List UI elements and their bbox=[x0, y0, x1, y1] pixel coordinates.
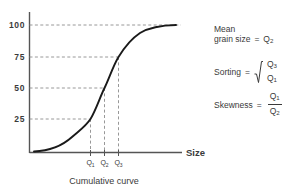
formula-sorting: Sorting = Q3 Q1 bbox=[214, 60, 281, 84]
formula-mean-equals: = bbox=[254, 34, 259, 44]
y-tick-label-75: 75 bbox=[14, 52, 25, 62]
x-axis-title: Size bbox=[186, 147, 205, 158]
cumulative-curve-figure: 100 75 50 25 Q1 Q2 Q3 Size Cumulative cu… bbox=[0, 0, 286, 193]
formula-mean-line1: Mean bbox=[214, 24, 273, 34]
formula-sorting-label: Sorting bbox=[214, 67, 241, 77]
formula-mean-line2: grain size bbox=[214, 34, 250, 44]
formula-skewness-denominator: Q2 bbox=[269, 106, 281, 118]
formula-panel: Mean grain size=Q2 Sorting = Q3 Q1 bbox=[214, 24, 286, 134]
figure-caption: Cumulative curve bbox=[69, 176, 139, 186]
y-tick-label-100: 100 bbox=[9, 20, 25, 30]
formula-skewness-fraction: Q1 Q2 bbox=[266, 91, 284, 119]
q2-label: Q2 bbox=[100, 159, 108, 168]
formula-skewness-label: Skewness bbox=[214, 100, 253, 110]
formula-mean-grain-size: Mean grain size=Q2 bbox=[214, 24, 273, 46]
cumulative-curve-path bbox=[34, 25, 176, 152]
q3-label: Q3 bbox=[114, 159, 122, 168]
y-tick-label-25: 25 bbox=[14, 114, 25, 124]
formula-skewness-numerator: Q1 bbox=[269, 91, 281, 103]
sqrt-icon: Q3 Q1 bbox=[254, 60, 281, 84]
formula-sorting-equals: = bbox=[245, 67, 250, 77]
formula-sorting-numerator: Q3 bbox=[266, 59, 278, 71]
formula-sorting-denominator: Q1 bbox=[266, 73, 278, 85]
formula-mean-line2-row: grain size=Q2 bbox=[214, 34, 273, 46]
formula-sorting-fraction: Q3 Q1 bbox=[263, 60, 281, 84]
formula-skewness-equals: = bbox=[257, 100, 262, 110]
fraction-bar-icon bbox=[268, 104, 282, 105]
q1-label: Q1 bbox=[86, 159, 94, 168]
formula-skewness: Skewness = Q1 Q2 bbox=[214, 91, 284, 119]
y-tick-label-50: 50 bbox=[14, 83, 25, 93]
formula-mean-value: Q2 bbox=[263, 34, 273, 44]
